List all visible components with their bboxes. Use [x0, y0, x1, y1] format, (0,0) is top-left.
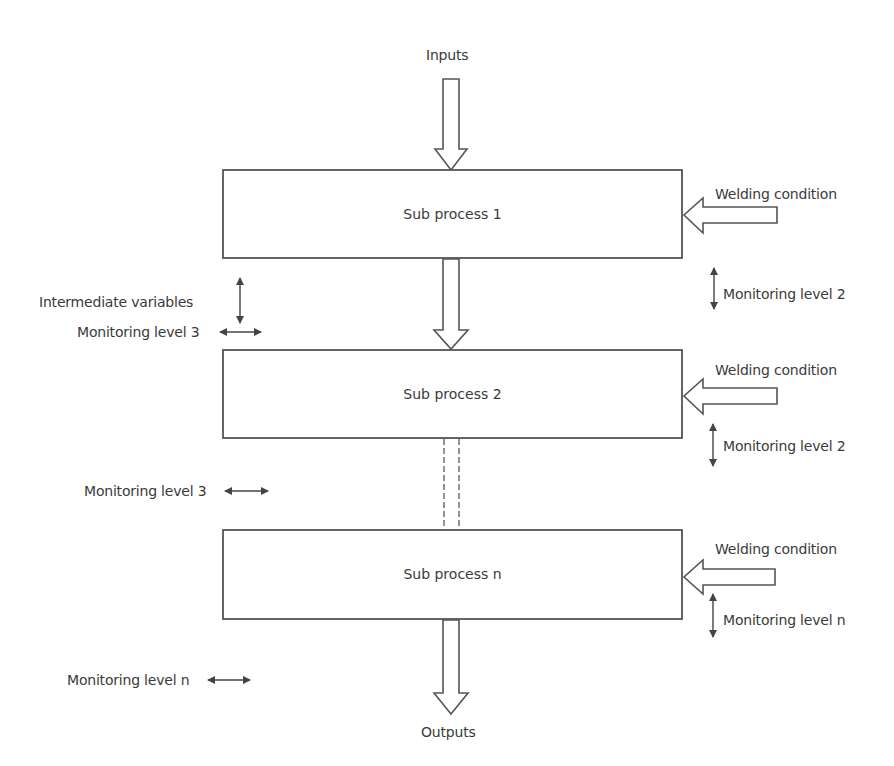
monitor-left-3-label: Monitoring level n [67, 672, 189, 688]
monitor-right-1-label: Monitoring level 2 [723, 286, 845, 302]
dashed-connector-icon [444, 439, 459, 529]
welding-condition-2-label: Welding condition [715, 362, 837, 378]
inputs-label: Inputs [426, 47, 468, 63]
outputs-arrow-icon [434, 620, 468, 714]
welding-condition-1-label: Welding condition [715, 186, 837, 202]
welding-arrow-n-icon [684, 560, 775, 594]
flow-arrow-1-to-2-icon [434, 259, 468, 349]
welding-arrow-2-icon [684, 379, 777, 414]
outputs-label: Outputs [421, 724, 476, 740]
subprocess-2-label: Sub process 2 [223, 386, 682, 402]
welding-arrow-1-icon [684, 198, 777, 233]
monitor-right-2-label: Monitoring level 2 [723, 438, 845, 454]
monitor-left-1-label: Monitoring level 3 [77, 324, 199, 340]
subprocess-n-label: Sub process n [223, 566, 682, 582]
welding-condition-n-label: Welding condition [715, 541, 837, 557]
process-flow-diagram [0, 0, 894, 766]
inputs-arrow-icon [435, 79, 467, 170]
monitor-left-2-label: Monitoring level 3 [84, 483, 206, 499]
subprocess-1-label: Sub process 1 [223, 206, 682, 222]
intermediate-variables-label: Intermediate variables [39, 294, 193, 310]
monitor-right-n-label: Monitoring level n [723, 612, 845, 628]
